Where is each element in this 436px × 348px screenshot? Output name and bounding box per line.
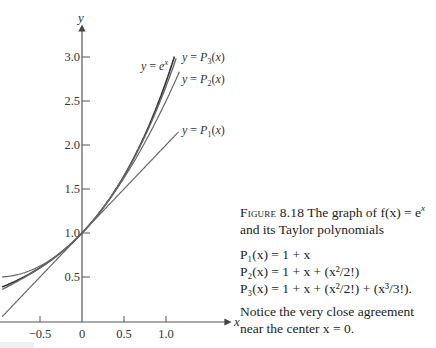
caption-sup: x <box>421 203 425 213</box>
equations: P₁(x) = 1 + x P₂(x) = 1 + x + (x²/2!) P₃… <box>240 246 436 297</box>
x-tick-labels: −0.5 0 0.5 1.0 <box>29 327 174 341</box>
svg-text:0.5: 0.5 <box>116 327 132 341</box>
x-ticks <box>40 316 166 322</box>
equation-p1: P₁(x) = 1 + x <box>240 246 436 263</box>
note-line-1: Notice the very close agreement <box>240 303 436 320</box>
x-axis-label: x <box>233 314 240 329</box>
curve-0 <box>2 57 174 287</box>
svg-text:2.5: 2.5 <box>64 94 80 108</box>
curves <box>2 57 179 317</box>
label-p1: y = P1(x) <box>181 123 225 139</box>
svg-text:0.5: 0.5 <box>64 270 80 284</box>
svg-text:0: 0 <box>79 327 85 341</box>
bottom-bar <box>0 342 34 348</box>
label-p2: y = P2(x) <box>181 72 225 88</box>
label-p3: y = P3(x) <box>181 50 225 66</box>
equation-p2: P₂(x) = 1 + x + (x²/2!) <box>240 263 436 280</box>
y-ticks <box>82 57 90 277</box>
figure-caption: Figure 8.18 The graph of f(x) = ex and i… <box>240 200 436 337</box>
note-line-2: near the center x = 0. <box>240 320 436 337</box>
svg-text:1.5: 1.5 <box>64 182 80 196</box>
curve-2 <box>2 72 179 277</box>
caption-text: The graph of f(x) = e <box>307 205 421 220</box>
caption-text-2: and its Taylor polynomials <box>240 221 436 238</box>
equation-p3: P₃(x) = 1 + x + (x²/2!) + (x³/3!). <box>240 280 436 297</box>
label-ex: y = ex <box>140 58 168 73</box>
svg-text:1.0: 1.0 <box>158 327 174 341</box>
curve-3 <box>2 132 178 317</box>
svg-text:−0.5: −0.5 <box>29 327 52 341</box>
figure-label: Figure 8.18 <box>240 205 304 220</box>
svg-text:3.0: 3.0 <box>64 50 80 64</box>
curve-1 <box>2 59 176 290</box>
y-axis-label: y <box>76 10 84 25</box>
svg-text:2.0: 2.0 <box>64 138 80 152</box>
curve-labels: y = ex y = P3(x) y = P2(x) y = P1(x) <box>140 50 225 139</box>
